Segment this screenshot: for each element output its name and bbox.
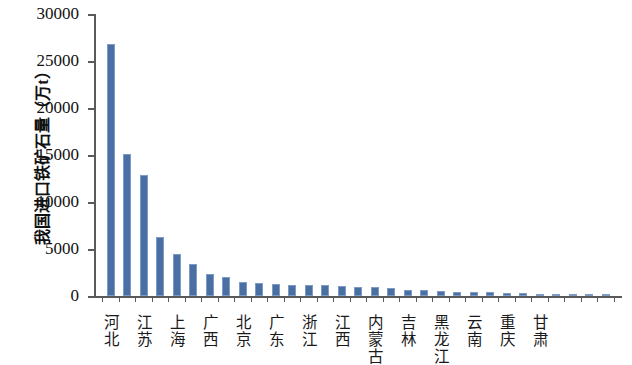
x-tick [581, 296, 582, 302]
x-tick-label: 广东 [268, 314, 284, 348]
bar [536, 294, 544, 296]
bar [552, 294, 560, 296]
x-tick-label: 吉林 [400, 314, 416, 348]
bar [486, 292, 494, 296]
x-tick-label: 云南 [466, 314, 482, 348]
bar [123, 154, 131, 296]
x-tick [614, 296, 615, 302]
bar [156, 237, 164, 296]
y-tick-label: 0 [71, 286, 80, 306]
x-tick-label: 黑龙江 [433, 314, 449, 365]
x-tick [350, 296, 351, 302]
y-tick-10000 [88, 202, 94, 204]
y-tick-5000 [88, 249, 94, 251]
x-tick [482, 296, 483, 302]
y-tick-15000 [88, 155, 94, 157]
x-tick [432, 296, 433, 302]
x-tick-label: 上海 [169, 314, 185, 348]
y-tick-label: 10000 [37, 192, 80, 212]
x-tick-label: 江西 [334, 314, 350, 348]
y-tick-20000 [88, 108, 94, 110]
bar [272, 284, 280, 296]
x-tick [135, 296, 136, 302]
bar [255, 283, 263, 296]
x-tick [564, 296, 565, 302]
bar [354, 287, 362, 296]
x-tick-label: 江苏 [136, 314, 152, 348]
x-tick [317, 296, 318, 302]
bar [470, 292, 478, 296]
bar [420, 290, 428, 296]
x-tick [366, 296, 367, 302]
bar [305, 285, 313, 296]
y-tick-0 [88, 296, 94, 298]
x-tick [383, 296, 384, 302]
y-axis-line [94, 14, 96, 296]
x-tick [284, 296, 285, 302]
x-tick [251, 296, 252, 302]
y-tick-label: 15000 [37, 145, 80, 165]
bar [585, 294, 593, 296]
x-tick [498, 296, 499, 302]
y-tick-label: 20000 [37, 98, 80, 118]
bar [404, 290, 412, 296]
bar [387, 288, 395, 296]
bar [338, 286, 346, 296]
x-tick-label: 河北 [103, 314, 119, 348]
y-tick-label: 30000 [37, 4, 80, 24]
bar [519, 293, 527, 296]
x-tick [465, 296, 466, 302]
x-tick [416, 296, 417, 302]
bar [453, 292, 461, 297]
y-tick-30000 [88, 14, 94, 16]
x-axis-line [94, 296, 622, 298]
x-tick [333, 296, 334, 302]
x-tick [449, 296, 450, 302]
bar [371, 287, 379, 296]
x-tick [234, 296, 235, 302]
x-tick [119, 296, 120, 302]
x-tick [531, 296, 532, 302]
bar [602, 294, 610, 296]
x-tick [515, 296, 516, 302]
bar [140, 175, 148, 296]
x-tick [168, 296, 169, 302]
bar [437, 291, 445, 296]
x-tick-label: 浙江 [301, 314, 317, 348]
x-tick [597, 296, 598, 302]
y-tick-label: 25000 [37, 51, 80, 71]
x-tick [102, 296, 103, 302]
y-tick-25000 [88, 61, 94, 63]
plot-area: 050001000015000200002500030000 河北江苏上海广西北… [94, 14, 622, 296]
x-tick-label: 广西 [202, 314, 218, 348]
bar [239, 282, 247, 296]
bar [288, 285, 296, 296]
bar [206, 274, 214, 296]
x-tick [218, 296, 219, 302]
x-tick-label: 北京 [235, 314, 251, 348]
x-tick [300, 296, 301, 302]
x-tick [152, 296, 153, 302]
x-tick-label: 重庆 [499, 314, 515, 348]
y-tick-label: 5000 [45, 239, 79, 259]
x-tick [399, 296, 400, 302]
bar [569, 294, 577, 296]
x-tick [267, 296, 268, 302]
x-tick-label: 甘肃 [532, 314, 548, 348]
bar [173, 254, 181, 296]
x-tick [201, 296, 202, 302]
bar [222, 277, 230, 296]
x-tick [548, 296, 549, 302]
bar [107, 44, 115, 296]
x-tick-label: 内蒙古 [367, 314, 383, 365]
x-tick [185, 296, 186, 302]
bar [321, 285, 329, 296]
bar [503, 293, 511, 296]
bar [189, 264, 197, 296]
